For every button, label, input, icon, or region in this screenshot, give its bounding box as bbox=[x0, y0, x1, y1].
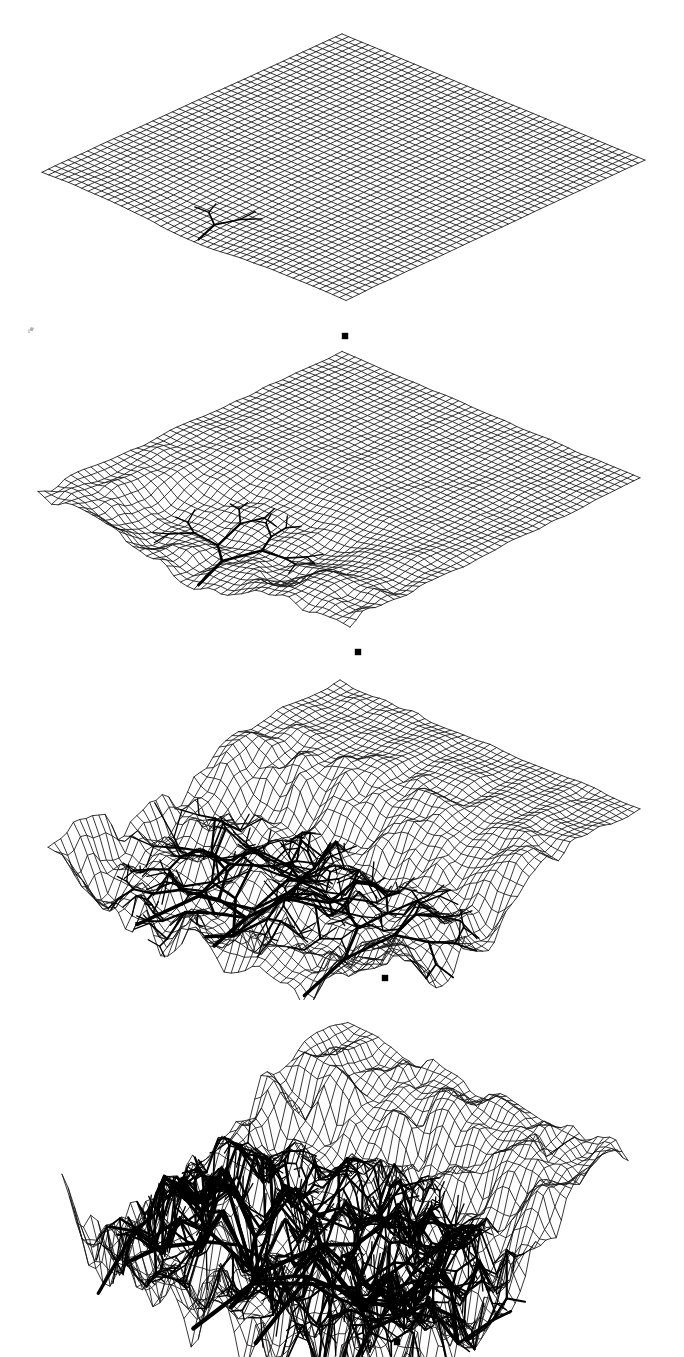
surface-panel-stage-3 bbox=[0, 668, 684, 1000]
surface-panel-stage-2 bbox=[0, 338, 684, 674]
figure-root bbox=[0, 0, 684, 1357]
surface-panel-stage-4 bbox=[0, 1016, 684, 1357]
surface-panel-stage-1 bbox=[0, 20, 684, 358]
